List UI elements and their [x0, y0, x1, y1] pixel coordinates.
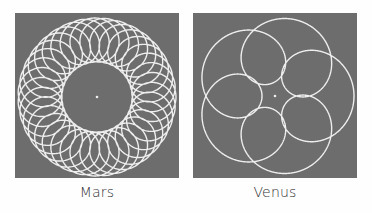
earth-center-dot [96, 96, 99, 99]
venus-epicycle-curve [193, 13, 357, 178]
earth-center-dot [274, 95, 277, 98]
mars-orbit-diagram [15, 13, 179, 178]
venus-label: Venus [193, 184, 357, 200]
mars-label: Mars [15, 184, 179, 200]
mars-epicycle-curve [15, 13, 179, 178]
venus-orbit-diagram [193, 13, 357, 178]
